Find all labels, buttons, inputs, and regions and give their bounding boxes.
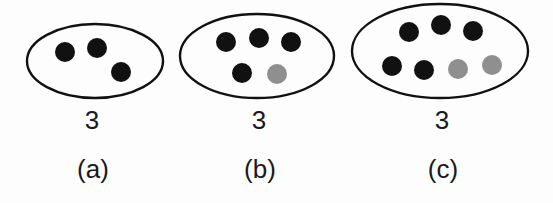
gray-counter-dot	[267, 64, 287, 84]
set-b-ellipse	[180, 14, 334, 98]
counting-sets-figure: 3 3 3 (a) (b) (c)	[0, 0, 553, 203]
set-b-count-label: 3	[252, 107, 266, 133]
black-counter-dot	[249, 28, 269, 48]
set-a-count-label: 3	[85, 107, 99, 133]
black-counter-dot	[111, 62, 131, 82]
set-b-caption: (b)	[244, 156, 276, 182]
set-c-caption: (c)	[428, 156, 458, 182]
black-counter-dot	[463, 21, 483, 41]
black-counter-dot	[87, 38, 107, 58]
set-c-count-label: 3	[435, 107, 449, 133]
black-counter-dot	[232, 63, 252, 83]
set-a-caption: (a)	[77, 156, 109, 182]
black-counter-dot	[281, 32, 301, 52]
black-counter-dot	[431, 15, 451, 35]
black-counter-dot	[399, 22, 419, 42]
black-counter-dot	[382, 56, 402, 76]
black-counter-dot	[55, 42, 75, 62]
gray-counter-dot	[448, 59, 468, 79]
gray-counter-dot	[482, 55, 502, 75]
black-counter-dot	[414, 60, 434, 80]
set-a-ellipse	[27, 24, 163, 98]
black-counter-dot	[216, 32, 236, 52]
